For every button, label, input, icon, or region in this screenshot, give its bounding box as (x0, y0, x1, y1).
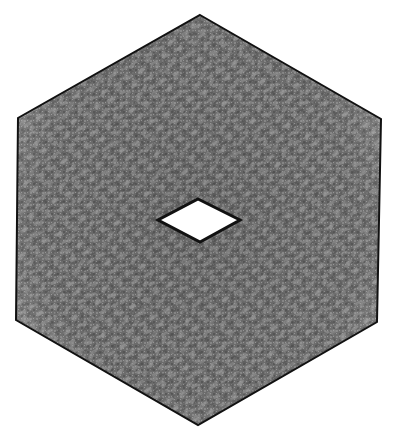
hexagon-tiling-figure (0, 0, 395, 436)
figure-stage (0, 0, 395, 436)
